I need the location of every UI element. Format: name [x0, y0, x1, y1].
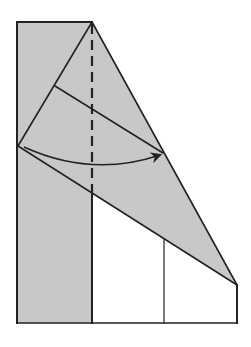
origami-diagram — [0, 0, 251, 347]
